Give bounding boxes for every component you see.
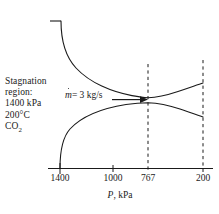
nozzle-figure: Stagnation region: 1400 kPa 200°C CO2 m=…: [0, 0, 219, 214]
stagnation-gas: CO2: [5, 121, 47, 134]
stagnation-line-2: region:: [5, 87, 47, 98]
mdot-symbol: m: [65, 90, 72, 101]
nozzle-lower-wall-curve: [60, 103, 203, 168]
tick-label-767: 767: [141, 173, 155, 183]
x-axis-title: P, kPa: [108, 190, 133, 201]
tick-label-1000: 1000: [104, 173, 123, 183]
stagnation-region-label: Stagnation region: 1400 kPa 200°C CO2: [5, 76, 47, 134]
gas-formula-text: CO: [5, 121, 18, 131]
stagnation-temperature: 200°C: [5, 110, 47, 121]
gas-formula-subscript: 2: [18, 126, 22, 133]
nozzle-upper-wall-curve: [61, 21, 203, 98]
tick-label-1400: 1400: [51, 173, 70, 183]
mass-flow-rate-label: m= 3 kg/s: [65, 90, 103, 101]
x-axis-unit: , kPa: [113, 190, 132, 200]
mdot-value: = 3 kg/s: [72, 90, 103, 100]
stagnation-pressure: 1400 kPa: [5, 98, 47, 109]
stagnation-line-1: Stagnation: [5, 76, 47, 87]
tick-label-200: 200: [196, 173, 210, 183]
